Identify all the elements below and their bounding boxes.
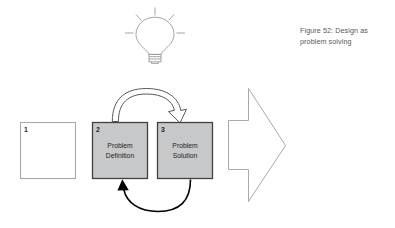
- box-2-label: Problem Definition: [92, 141, 148, 161]
- box-3-number: 3: [161, 126, 165, 133]
- box-2-label-line-1: Problem: [92, 141, 148, 151]
- box-2-label-line-2: Definition: [92, 151, 148, 161]
- box-3-label-line-2: Solution: [157, 151, 213, 161]
- box-1: [21, 123, 76, 179]
- large-hollow-arrow-right: [229, 89, 286, 202]
- box-2-number: 2: [96, 126, 100, 133]
- lightbulb-base: [149, 54, 161, 61]
- lightbulb-ray-upper-right: [169, 15, 175, 21]
- hollow-curved-arrow-right: [112, 89, 186, 124]
- lightbulb-glass: [136, 17, 174, 54]
- figure-canvas: 1 2 3 Problem Definition Problem Solutio…: [0, 0, 395, 228]
- figure-caption: Figure 52: Design as problem solving: [300, 25, 392, 47]
- box-3-label-line-1: Problem: [157, 141, 213, 151]
- solid-arrowhead: [117, 179, 128, 190]
- lightbulb-ray-upper-left: [136, 15, 142, 21]
- box-3-label: Problem Solution: [157, 141, 213, 161]
- lightbulb-icon: [125, 8, 185, 64]
- box-1-number: 1: [24, 126, 28, 133]
- solid-curved-arrow-left: [117, 179, 190, 211]
